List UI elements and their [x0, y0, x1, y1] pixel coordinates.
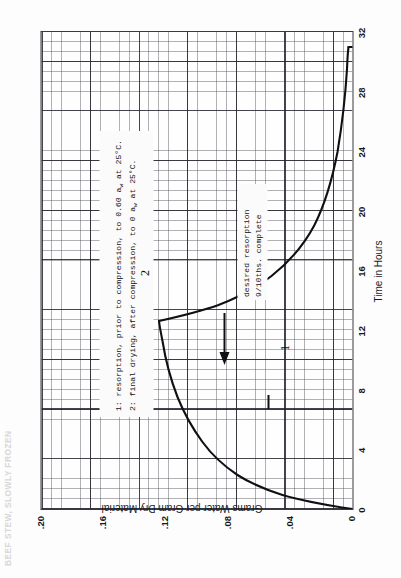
x-tick-label: 28: [355, 87, 366, 98]
note-line-1-pre: 1: resorption, prior to compression, to …: [113, 188, 122, 411]
note-line-1: 1: resorption, prior to compression, to …: [112, 137, 126, 411]
y-tick-label: 0: [346, 516, 357, 521]
curves-svg: [41, 32, 352, 509]
callout-line-1: desired resorption: [240, 184, 252, 297]
y-tick-label: .20: [35, 516, 46, 529]
x-axis-label: Time in Hours: [372, 33, 383, 510]
y-tick-label: .08: [221, 516, 232, 529]
plot-area: 1: resorption, prior to compression, to …: [40, 31, 353, 510]
note-line-1-post: at 25°C.: [113, 140, 122, 184]
chart-title: BEEF STEW, SLOWLY FROZEN: [2, 430, 12, 566]
note-line-2-pre: 2: final drying, after compression, to 0…: [127, 207, 136, 411]
x-tick-label: 0: [355, 507, 366, 512]
curve-1-resorption: [159, 321, 353, 509]
note-line-1-subscript: w: [117, 184, 124, 188]
chart-figure: BEEF STEW, SLOWLY FROZEN: [0, 0, 401, 578]
curve-label-2: 2: [137, 270, 152, 276]
callout-arrow: [219, 313, 229, 365]
note-line-2-subscript: w: [131, 203, 138, 207]
y-tick-label: .04: [283, 516, 294, 529]
x-tick-label: 20: [355, 207, 366, 218]
rotated-page-wrapper: BEEF STEW, SLOWLY FROZEN: [0, 0, 401, 578]
x-tick-label: 32: [355, 28, 366, 39]
x-tick-label: 4: [355, 448, 366, 453]
callout-note-box: desired resorption 9/10ths. complete: [237, 184, 267, 300]
x-tick-label: 16: [355, 266, 366, 277]
note-line-2-post: at 25°C.: [127, 160, 136, 204]
curve-label-1: 1: [277, 345, 292, 351]
y-tick-label: .12: [159, 516, 170, 529]
callout-line-2: 9/10ths. complete: [252, 184, 264, 297]
x-tick-label: 12: [355, 326, 366, 337]
y-tick-label: .16: [97, 516, 108, 529]
y-axis-label: Grams Water per Gram Dry Material: [26, 503, 337, 514]
x-tick-label: 8: [355, 388, 366, 393]
x-tick-label: 24: [355, 147, 366, 158]
